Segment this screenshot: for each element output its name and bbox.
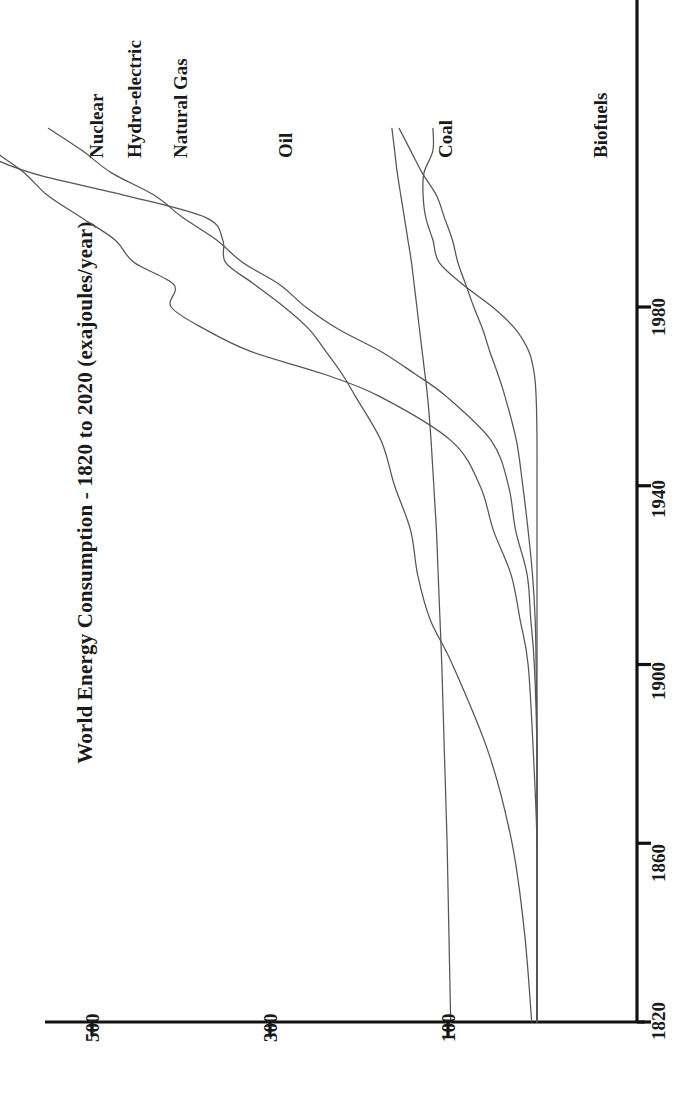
y-tick-label-100: 100	[438, 1014, 460, 1043]
series-label-natural-gas: Natural Gas	[170, 58, 192, 158]
series-label-nuclear: Nuclear	[86, 94, 108, 158]
x-tick-label-1820: 1820	[648, 1002, 670, 1040]
y-tick-label-300: 300	[260, 1014, 282, 1043]
series-label-coal: Coal	[435, 120, 457, 158]
series-line-oil	[0, 128, 537, 1022]
x-tick-label-1860: 1860	[648, 844, 670, 882]
x-tick-label-1940: 1940	[648, 480, 670, 518]
series-line-natural-gas	[48, 128, 537, 1022]
series-line-biofuels	[392, 128, 451, 1022]
series-label-oil: Oil	[275, 133, 297, 158]
y-tick-label-500: 500	[82, 1014, 104, 1043]
series-label-biofuels: Biofuels	[590, 93, 612, 158]
x-tick-label-1980: 1980	[648, 298, 670, 336]
series-label-hydro: Hydro-electric	[124, 40, 146, 158]
chart-figure: World Energy Consumption - 1820 to 2020 …	[0, 0, 694, 1100]
series-line-coal	[0, 128, 532, 1022]
series-line-nuclear	[423, 128, 537, 1022]
x-tick-label-1900: 1900	[648, 662, 670, 700]
plot-area	[0, 0, 694, 1100]
series-line-hydro-electric	[399, 128, 537, 1022]
series-lines-group	[0, 128, 537, 1022]
